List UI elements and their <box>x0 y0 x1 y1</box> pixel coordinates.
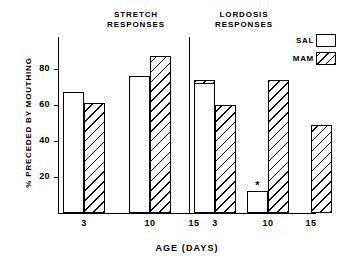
plot-area: 20406080 * 3101531015 % PRECEDED BY MOUT… <box>0 0 338 269</box>
bar-stretch-day3-sal <box>63 92 84 213</box>
figure-bar-chart: STRETCH RESPONSES LORDOSIS RESPONSES SAL… <box>0 0 338 269</box>
x-label-lordosis-day15: 15 <box>294 218 328 228</box>
significance-asterisk: * <box>253 182 263 188</box>
bar-lordosis-day10-mam <box>268 80 289 213</box>
x-label-lordosis-day10: 10 <box>251 218 285 228</box>
bar-lordosis-day15-mam <box>311 125 332 213</box>
y-tick-20 <box>54 177 59 178</box>
y-axis-title: % PRECEDED BY MOUTHING <box>24 35 33 211</box>
y-tick-80 <box>54 69 59 70</box>
bar-stretch-day10-mam <box>150 56 171 213</box>
bar-lordosis-day10-sal <box>247 191 268 213</box>
bar-stretch-day10-sal <box>129 76 150 213</box>
y-tick-40 <box>54 141 59 142</box>
x-axis-line <box>58 213 316 214</box>
bar-lordosis-day3-sal <box>194 83 215 213</box>
panel-divider-line <box>189 37 190 214</box>
bar-stretch-day3-mam <box>84 103 105 213</box>
x-label-lordosis-day3: 3 <box>198 218 232 228</box>
x-axis-title: AGE (DAYS) <box>58 243 316 253</box>
x-label-stretch-day3: 3 <box>67 218 101 228</box>
bar-lordosis-day3-mam <box>215 105 236 213</box>
x-label-stretch-day10: 10 <box>133 218 167 228</box>
y-tick-60 <box>54 105 59 106</box>
y-axis-line <box>58 37 59 214</box>
